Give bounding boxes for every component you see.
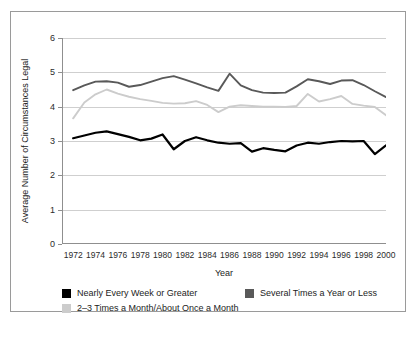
x-tick-label: 1976 [108, 250, 127, 260]
y-tick-label: 2 [50, 170, 55, 180]
y-axis-label: Average Number of Circumstances Legal [20, 59, 30, 223]
x-tick-label: 1980 [153, 250, 172, 260]
series-line [73, 131, 386, 154]
x-tick-label: 1972 [64, 250, 83, 260]
x-tick-label: 1992 [287, 250, 306, 260]
legend-row-1: Nearly Every Week or Greater Several Tim… [62, 288, 392, 303]
y-tick-label: 0 [50, 239, 55, 249]
x-tick-label: 1996 [332, 250, 351, 260]
x-axis-label: Year [62, 268, 386, 278]
y-tick-label: 1 [50, 205, 55, 215]
x-tick-label: 1984 [198, 250, 217, 260]
legend-swatch-icon [245, 289, 254, 298]
legend-item-0[interactable]: Nearly Every Week or Greater [62, 288, 197, 299]
chart-figure: Average Number of Circumstances Legal 01… [10, 11, 406, 312]
x-tick-label: 1988 [242, 250, 261, 260]
x-tick-label: 1982 [175, 250, 194, 260]
chart-legend: Nearly Every Week or Greater Several Tim… [62, 288, 392, 318]
x-tick-label: 1990 [265, 250, 284, 260]
legend-label: 2–3 Times a Month/About Once a Month [77, 303, 239, 314]
x-tick-label: 1974 [86, 250, 105, 260]
x-tick-label: 1994 [309, 250, 328, 260]
series-lines [62, 38, 386, 244]
y-tick-mark [58, 244, 62, 245]
legend-swatch-icon [62, 289, 71, 298]
y-tick-label: 6 [50, 33, 55, 43]
x-tick-label: 2000 [377, 250, 396, 260]
legend-label: Several Times a Year or Less [260, 288, 377, 299]
y-tick-label: 3 [50, 136, 55, 146]
y-tick-label: 5 [50, 67, 55, 77]
legend-item-2[interactable]: 2–3 Times a Month/About Once a Month [62, 303, 239, 314]
y-tick-label: 4 [50, 102, 55, 112]
plot-area: 0123456 [62, 38, 386, 244]
legend-item-1[interactable]: Several Times a Year or Less [245, 288, 377, 299]
series-line [73, 90, 386, 119]
x-tick-label: 1986 [220, 250, 239, 260]
x-axis-ticks: 1972197419761978198019821984198619881990… [62, 250, 386, 264]
x-tick-label: 1998 [354, 250, 373, 260]
legend-label: Nearly Every Week or Greater [77, 288, 197, 299]
legend-swatch-icon [62, 304, 71, 313]
legend-row-2: 2–3 Times a Month/About Once a Month [62, 303, 392, 318]
x-tick-label: 1978 [131, 250, 150, 260]
